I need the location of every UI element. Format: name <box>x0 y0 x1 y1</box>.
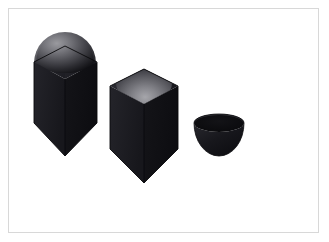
render-canvas-frame <box>8 8 319 233</box>
three-solids-render <box>9 9 318 232</box>
object-box-with-dome <box>34 32 97 156</box>
object-standalone-bowl <box>194 114 244 156</box>
object-box-with-cavity <box>110 61 178 183</box>
scene-root: Three dark geometric solids on white bac… <box>0 0 329 242</box>
dome-base-seat <box>36 33 94 73</box>
